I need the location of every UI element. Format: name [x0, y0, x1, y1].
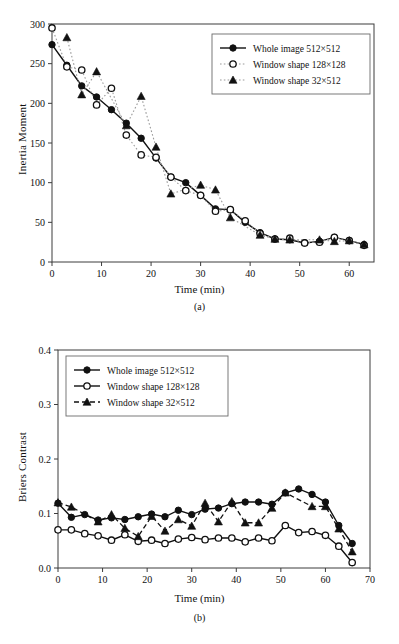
data-point-filled-triangle [226, 214, 234, 221]
y-tick-label: 0.4 [39, 345, 52, 356]
data-point-filled-circle [230, 45, 236, 51]
panel-b-y-axis-label: Briers Contrast [16, 432, 28, 502]
y-tick-label: 0.0 [39, 563, 52, 574]
y-tick-label: 0 [40, 257, 45, 268]
data-point-open-circle [55, 527, 61, 533]
data-point-filled-triangle [152, 143, 160, 150]
data-point-filled-triangle [188, 522, 196, 529]
data-point-open-circle [322, 532, 328, 538]
data-point-open-circle [242, 218, 248, 224]
data-point-filled-triangle [228, 498, 236, 505]
data-point-open-circle [309, 528, 315, 534]
legend-label-2: Window shape 32×512 [253, 76, 341, 86]
data-point-open-circle [212, 208, 218, 214]
x-tick-label: 0 [50, 268, 55, 279]
data-point-filled-circle [135, 514, 141, 520]
data-point-open-circle [295, 529, 301, 535]
data-point-filled-triangle [78, 91, 86, 98]
data-point-filled-triangle [134, 532, 142, 539]
data-point-filled-circle [79, 83, 85, 89]
data-point-filled-circle [49, 41, 55, 47]
data-point-open-circle [168, 174, 174, 180]
series-line-1 [58, 525, 352, 562]
x-tick-label: 30 [187, 574, 197, 585]
data-point-open-circle [202, 536, 208, 542]
data-point-filled-circle [108, 106, 114, 112]
x-tick-label: 50 [276, 574, 286, 585]
data-point-open-circle [336, 543, 342, 549]
data-point-filled-circle [255, 499, 261, 505]
y-tick-label: 50 [35, 217, 45, 228]
figure-container: 0102030405060050100150200250300Whole ima… [0, 0, 399, 644]
data-point-open-circle [183, 187, 189, 193]
x-tick-label: 60 [344, 268, 354, 279]
data-point-filled-circle [82, 511, 88, 517]
y-tick-label: 200 [30, 98, 45, 109]
series-group [54, 486, 356, 566]
panel-b-x-axis-label: Time (min) [0, 592, 399, 604]
data-point-open-circle [227, 206, 233, 212]
data-point-open-circle [82, 530, 88, 536]
data-point-open-circle [108, 537, 114, 543]
data-point-open-circle [64, 64, 70, 70]
panel-b-caption: (b) [0, 612, 399, 623]
x-tick-label: 20 [146, 268, 156, 279]
data-point-open-circle [95, 533, 101, 539]
data-point-open-circle [79, 67, 85, 73]
data-point-filled-triangle [137, 92, 145, 99]
x-tick-label: 10 [98, 574, 108, 585]
y-tick-label: 0.1 [39, 508, 52, 519]
x-tick-label: 0 [56, 574, 61, 585]
y-tick-label: 100 [30, 177, 45, 188]
legend-label-1: Window shape 128×128 [107, 382, 200, 392]
series-markers-2 [54, 489, 356, 555]
data-point-filled-circle [84, 367, 90, 373]
data-point-filled-triangle [211, 186, 219, 193]
data-point-filled-triangle [174, 515, 182, 522]
data-point-open-circle [153, 154, 159, 160]
panel-a-y-axis-label: Inertia Moment [16, 103, 28, 175]
series-markers-1 [55, 522, 356, 565]
inertia-moment-chart: 0102030405060050100150200250300Whole ima… [0, 0, 399, 290]
data-point-filled-circle [295, 486, 301, 492]
x-tick-label: 60 [320, 574, 330, 585]
data-point-open-circle [229, 535, 235, 541]
data-point-filled-triangle [93, 68, 101, 75]
series-line-0 [58, 489, 352, 543]
data-point-filled-circle [93, 94, 99, 100]
briers-contrast-chart: 0102030405060700.00.10.20.30.4Whole imag… [0, 320, 399, 588]
chart-panel-a: 0102030405060050100150200250300Whole ima… [0, 0, 399, 320]
legend-label-0: Whole image 512×512 [107, 366, 194, 376]
legend: Whole image 512×512Window shape 128×128W… [66, 356, 228, 416]
panel-a-caption: (a) [0, 301, 399, 312]
data-point-filled-triangle [161, 527, 169, 534]
x-tick-label: 40 [245, 268, 255, 279]
data-point-open-circle [108, 85, 114, 91]
data-point-filled-triangle [63, 33, 71, 40]
data-point-open-circle [230, 61, 236, 67]
data-point-open-circle [123, 132, 129, 138]
x-tick-label: 10 [97, 268, 107, 279]
legend-label-1: Window shape 128×128 [253, 60, 346, 70]
data-point-open-circle [175, 536, 181, 542]
y-tick-label: 0.3 [39, 399, 52, 410]
data-point-filled-circle [202, 506, 208, 512]
data-point-filled-circle [175, 507, 181, 513]
data-point-filled-circle [215, 505, 221, 511]
y-tick-label: 250 [30, 58, 45, 69]
y-tick-label: 0.2 [39, 454, 52, 465]
chart-panel-b: 0102030405060700.00.10.20.30.4Whole imag… [0, 320, 399, 644]
data-point-open-circle [148, 537, 154, 543]
data-point-open-circle [197, 192, 203, 198]
data-point-filled-circle [309, 491, 315, 497]
x-tick-label: 30 [196, 268, 206, 279]
data-point-filled-triangle [107, 511, 115, 518]
data-point-open-circle [282, 522, 288, 528]
data-point-filled-circle [68, 514, 74, 520]
data-point-open-circle [49, 25, 55, 31]
x-tick-label: 20 [142, 574, 152, 585]
panel-a-x-axis-label: Time (min) [0, 283, 399, 295]
data-point-filled-circle [242, 499, 248, 505]
y-tick-label: 150 [30, 138, 45, 149]
data-point-open-circle [301, 240, 307, 246]
